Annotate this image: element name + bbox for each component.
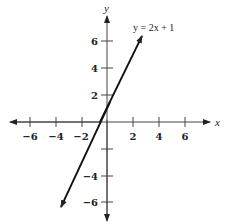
coordinate-plane: −6 −4 −2 2 4 6 6 4 2 −4 −6 x y y = 2x + …	[0, 0, 227, 224]
x-tick-label: −4	[48, 131, 63, 142]
y-tick-label: 2	[91, 90, 98, 101]
x-tick-label: −6	[22, 131, 37, 142]
y-axis-label: y	[103, 2, 109, 14]
equation-label: y = 2x + 1	[133, 22, 174, 33]
y-tick-label: 6	[91, 36, 98, 47]
x-tick-label: 4	[156, 131, 163, 142]
x-axis-label: x	[214, 116, 220, 128]
x-tick-label: 2	[130, 131, 137, 142]
line-y-2x-plus-1-lower	[61, 102, 110, 207]
y-tick-label: −6	[83, 197, 98, 208]
y-tick-label: 4	[91, 63, 98, 74]
y-tick-label: −4	[83, 171, 98, 182]
x-tick-label: −2	[73, 131, 88, 142]
x-tick-label: 6	[182, 131, 189, 142]
